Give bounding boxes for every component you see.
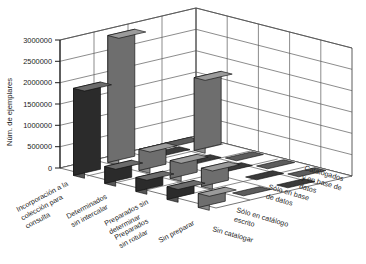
y-tick-2000000: 2000000 — [23, 78, 52, 87]
y-tick-3000000: 3000000 — [23, 36, 52, 45]
chart-container: 3000000 2500000 2000000 1500000 1000000 … — [0, 0, 366, 264]
y-tick-1000000: 1000000 — [23, 121, 52, 130]
category-label-4-line1: Sin preparar — [157, 218, 197, 245]
bar-chart-3d: 3000000 2500000 2000000 1500000 1000000 … — [0, 0, 366, 264]
y-axis-title: Núm. de ejemplares — [5, 78, 14, 146]
y-tick-2500000: 2500000 — [23, 57, 52, 66]
bar — [108, 29, 146, 165]
bar — [194, 71, 232, 153]
y-tick-0: 0 — [48, 164, 52, 173]
y-tick-500000: 500000 — [27, 142, 52, 151]
y-axis: 3000000 2500000 2000000 1500000 1000000 … — [5, 36, 60, 173]
y-tick-1500000: 1500000 — [23, 100, 52, 109]
